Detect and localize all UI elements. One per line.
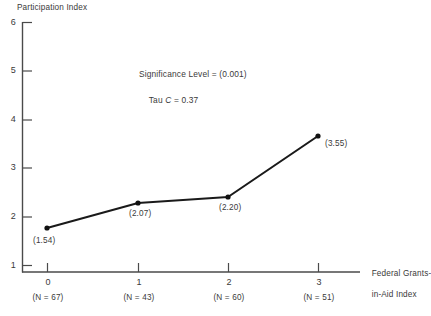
x-tick-marks [48,263,319,272]
y-tick-marks [23,23,33,266]
data-point-label-1: (2.07) [129,209,169,218]
group-size-label-1: (N = 43) [109,293,169,302]
group-size-label-3: (N = 51) [289,293,349,302]
x-axis-title-line1: Federal Grants- [372,269,431,278]
data-point-label-3: (3.55) [325,139,365,148]
x-tick-label-2: 2 [218,277,240,287]
y-tick-label-2: 2 [2,211,16,221]
tau-annotation: Tau C = 0.37 [139,81,198,120]
data-point-label-0: (1.54) [33,236,73,245]
data-point-marker [225,194,230,199]
significance-annotation: Significance Level = (0.001) [139,68,247,81]
x-tick-label-0: 0 [37,277,59,287]
group-size-label-0: (N = 67) [18,293,78,302]
data-point-marker [44,225,49,230]
x-axis-title: Federal Grants- in-Aid Index [362,258,431,311]
tau-label: Tau [149,95,165,105]
tau-value: = 0.37 [171,95,198,105]
x-tick-label-1: 1 [128,277,150,287]
y-tick-label-5: 5 [2,65,16,75]
data-point-marker [315,133,320,138]
y-tick-label-6: 6 [2,17,16,27]
y-tick-label-4: 4 [2,114,16,124]
group-size-label-2: (N = 60) [199,293,259,302]
data-point-marker [135,200,140,205]
x-tick-label-3: 3 [308,277,330,287]
y-tick-label-3: 3 [2,162,16,172]
data-point-label-2: (2.20) [219,203,259,212]
x-axis-title-line2: in-Aid Index [372,290,417,299]
data-line-series [47,136,318,228]
data-point-markers [44,133,320,230]
y-axis-title: Participation Index [17,3,87,12]
y-tick-label-1: 1 [2,260,16,270]
